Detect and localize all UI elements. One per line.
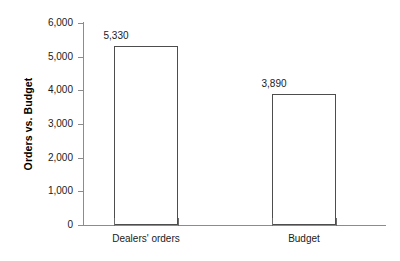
bar-budget[interactable] (272, 94, 336, 225)
bar-chart: Orders vs. Budget 0 1,000 2,000 3,000 4,… (0, 0, 400, 261)
category-tick (178, 218, 179, 226)
y-tick-label: 1,000 (48, 186, 73, 196)
category-label-budget: Budget (244, 233, 364, 244)
y-axis-title: Orders vs. Budget (22, 44, 34, 204)
bar-value-label-budget: 3,890 (242, 79, 306, 89)
category-label-dealers-orders: Dealers' orders (86, 233, 206, 244)
plot-area (83, 23, 385, 225)
bar-dealers-orders[interactable] (114, 46, 178, 225)
category-tick (336, 218, 337, 226)
bar-value-label-dealers-orders: 5,330 (84, 31, 148, 41)
y-tick-label: 5,000 (48, 52, 73, 62)
category-tick (114, 218, 115, 226)
x-axis-line (83, 225, 386, 226)
y-tick-label: 6,000 (48, 18, 73, 28)
y-tick-label: 3,000 (48, 119, 73, 129)
category-tick (272, 218, 273, 226)
y-tick-mark (78, 225, 83, 226)
y-tick-label: 4,000 (48, 85, 73, 95)
y-tick-label: 0 (67, 220, 73, 230)
y-tick-label: 2,000 (48, 153, 73, 163)
